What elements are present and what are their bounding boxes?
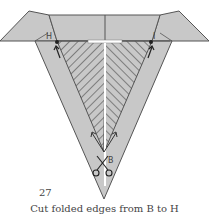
top-slit [88,40,122,43]
label-i: I [153,32,155,41]
right-wing-flap [152,11,209,41]
step-number: 27 [39,187,52,198]
label-h: H [46,32,52,41]
origami-diagram: H I B [0,0,209,214]
point-h-dot [55,40,59,44]
figure-caption: Cut folded edges from B to H [0,203,209,214]
label-b: B [108,156,114,165]
